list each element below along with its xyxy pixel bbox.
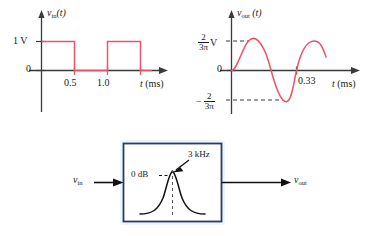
output-signal-label: vout (t) (237, 8, 262, 18)
block-output-label: vout (294, 175, 307, 185)
input-signal-sub: in (51, 12, 56, 19)
input-x-axis-arrow (159, 67, 168, 74)
output-ytick-pos-unit: V (210, 37, 217, 48)
input-xtick-label-0p5: 0.5 (64, 78, 77, 88)
block-diagram: vin vout 0 dB 3 kHz (0, 118, 384, 236)
input-waveform-svg (0, 0, 192, 118)
block-output-label-sub: out (298, 179, 306, 186)
output-x-axis-arrow (351, 67, 360, 74)
input-xtick-label-1p0: 1.0 (97, 78, 110, 88)
input-ytick-label-1v: 1 V (13, 36, 28, 46)
output-waveform-svg (192, 0, 384, 118)
output-signal-arg: (t) (252, 7, 261, 18)
zero-db-label: 0 dB (131, 170, 148, 179)
output-signal-sub: out (241, 12, 249, 19)
input-signal-arg: (t) (57, 7, 66, 18)
figure-root: vin(t) 1 V 0 0.5 1.0 t (ms) (0, 0, 384, 236)
input-xaxis-label: t (ms) (140, 79, 164, 89)
input-signal-label: vin(t) (47, 8, 66, 18)
output-ytick-label-positive: 2 3π V (198, 33, 217, 52)
three-khz-label: 3 kHz (188, 150, 210, 159)
output-ytick-pos-fraction: 2 3π (198, 33, 209, 52)
output-ytick-pos-denominator: 3π (198, 43, 209, 52)
output-ytick-label-zero: 0 (217, 64, 222, 74)
output-xaxis-label: t (ms) (332, 79, 356, 89)
output-ytick-label-negative: − 2 3π (196, 92, 215, 111)
output-arrow-head (281, 178, 291, 186)
block-input-label: vin (73, 175, 83, 185)
input-y-axis-arrow (38, 10, 44, 18)
output-ytick-neg-fraction: 2 3π (204, 92, 215, 111)
input-ytick-label-0: 0 (26, 64, 31, 74)
output-xtick-label-0p33: 0.33 (298, 76, 316, 86)
output-ytick-neg-sign: − (196, 96, 203, 107)
output-waveform-chart: vout (t) 2 3π V 0 − 2 3π 0.33 t (ms) (192, 0, 384, 118)
output-ytick-neg-denominator: 3π (204, 102, 215, 111)
input-waveform-chart: vin(t) 1 V 0 0.5 1.0 t (ms) (0, 0, 192, 118)
block-input-label-sub: in (77, 179, 82, 186)
input-square-wave-trace (42, 42, 153, 71)
output-y-axis-arrow (228, 10, 234, 18)
block-diagram-svg (0, 118, 384, 236)
